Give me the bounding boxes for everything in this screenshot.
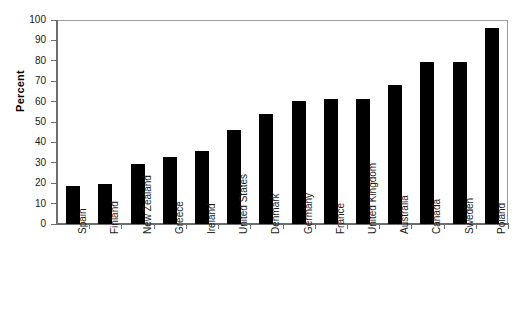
x-axis-tick bbox=[218, 224, 219, 229]
x-axis-category-label: Australia bbox=[399, 195, 410, 234]
x-axis-tick bbox=[379, 224, 380, 229]
x-axis-tick bbox=[186, 224, 187, 229]
x-axis-tick bbox=[315, 224, 316, 229]
x-axis-category-label: Canada bbox=[431, 199, 442, 234]
x-axis-category-label: United States bbox=[238, 174, 249, 234]
x-axis-category-label: France bbox=[335, 203, 346, 234]
x-axis-category-label: Ireland bbox=[206, 203, 217, 234]
bar-chart: Percent 0102030405060708090100 SpainFinl… bbox=[0, 0, 526, 321]
x-axis-category-label: Sweden bbox=[464, 198, 475, 234]
x-axis-tick bbox=[121, 224, 122, 229]
x-axis-category-label: Germany bbox=[303, 193, 314, 234]
bar bbox=[485, 28, 499, 224]
x-axis-tick bbox=[154, 224, 155, 229]
x-axis-tick bbox=[283, 224, 284, 229]
x-axis-category-label: Greece bbox=[174, 201, 185, 234]
x-axis-category-label: Denmark bbox=[270, 193, 281, 234]
x-axis-category-label: United Kingdom bbox=[367, 163, 378, 234]
x-axis-tick bbox=[347, 224, 348, 229]
x-axis-category-label: New Zealand bbox=[142, 175, 153, 234]
x-axis-category-label: Poland bbox=[496, 203, 507, 234]
x-axis-tick bbox=[476, 224, 477, 229]
x-axis-tick bbox=[508, 224, 509, 229]
x-axis-tick bbox=[444, 224, 445, 229]
x-axis-tick bbox=[250, 224, 251, 229]
x-axis-category-label: Finland bbox=[109, 201, 120, 234]
bars-layer: SpainFinlandNew ZealandGreeceIrelandUnit… bbox=[0, 0, 526, 321]
x-axis-tick bbox=[89, 224, 90, 229]
x-axis-tick bbox=[411, 224, 412, 229]
x-axis-category-label: Spain bbox=[77, 208, 88, 234]
